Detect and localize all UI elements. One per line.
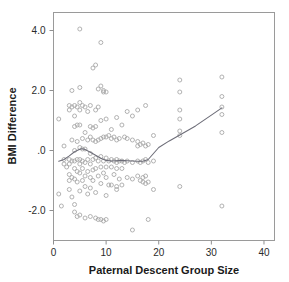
x-tick-label: 30 (206, 247, 218, 258)
chart-figure: -2.0.02.04.0 010203040 Paternal Descent … (0, 0, 289, 282)
scatter-plot: -2.0.02.04.0 010203040 Paternal Descent … (0, 0, 289, 282)
y-tick-label: 2.0 (32, 85, 46, 96)
y-axis-title: BMI Difference (6, 87, 18, 164)
x-tick-label: 10 (101, 247, 113, 258)
x-tick-label: 0 (51, 247, 57, 258)
x-axis-title: Paternal Descent Group Size (89, 264, 239, 276)
x-tick-label: 20 (153, 247, 165, 258)
x-tick-label: 40 (258, 247, 270, 258)
y-tick-label: -2.0 (28, 205, 46, 216)
y-tick-label: .0 (37, 145, 46, 156)
y-tick-label: 4.0 (32, 25, 46, 36)
figure-background (0, 0, 289, 282)
